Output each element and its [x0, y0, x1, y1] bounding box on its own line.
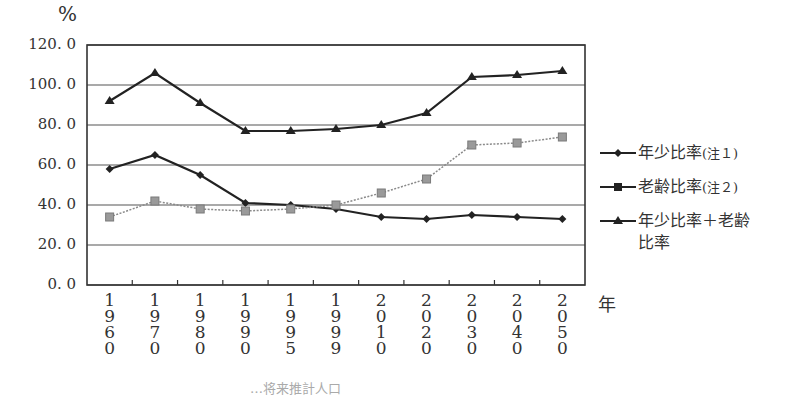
data-point: [558, 133, 566, 141]
legend-note: (注２): [702, 180, 738, 195]
series-line: [110, 71, 563, 131]
legend-label-line2: 比率: [638, 233, 670, 252]
y-unit-label: %: [58, 2, 77, 26]
y-tick-label: 60. 0: [6, 155, 76, 173]
x-tick-label: 1 9 8 0: [192, 292, 208, 356]
y-tick-label: 80. 0: [6, 115, 76, 133]
legend-label: 年少比率: [638, 143, 702, 162]
legend-label: 年少比率＋老齢: [638, 211, 750, 230]
legend-item-youth-ratio: 年少比率(注１): [598, 142, 738, 165]
y-tick-label: 120. 0: [6, 35, 76, 53]
y-tick-label: 100. 0: [6, 75, 76, 93]
x-tick-label: 2 0 1 0: [373, 292, 389, 356]
data-point: [423, 215, 431, 223]
triangle-marker-icon: [598, 210, 638, 232]
x-tick-label: 1 9 9 5: [283, 292, 299, 356]
y-tick-label: 40. 0: [6, 195, 76, 213]
x-tick-label: 2 0 2 0: [419, 292, 435, 356]
data-point: [513, 139, 521, 147]
diamond-marker-icon: [598, 142, 638, 164]
data-point: [196, 205, 204, 213]
legend-note: (注１): [702, 146, 738, 161]
legend-item-total-ratio: 年少比率＋老齢比率: [598, 210, 750, 254]
data-point: [241, 207, 249, 215]
x-tick-label: 2 0 5 0: [554, 292, 570, 356]
square-marker-icon: [598, 176, 638, 198]
data-point: [468, 211, 476, 219]
data-point: [377, 213, 385, 221]
data-point: [150, 68, 160, 76]
legend-label: 老齢比率: [638, 177, 702, 196]
data-point: [513, 213, 521, 221]
data-point: [332, 201, 340, 209]
data-point: [557, 66, 567, 74]
data-point: [468, 141, 476, 149]
data-point: [106, 213, 114, 221]
data-point: [106, 165, 114, 173]
footer-partial-text: …将来推計人口: [250, 378, 341, 397]
data-point: [377, 189, 385, 197]
legend-item-elderly-ratio: 老齢比率(注２): [598, 176, 738, 199]
data-point: [151, 151, 159, 159]
x-tick-label: 1 9 7 0: [147, 292, 163, 356]
data-point: [423, 175, 431, 183]
y-tick-label: 20. 0: [6, 235, 76, 253]
x-tick-label: 1 9 6 0: [102, 292, 118, 356]
y-tick-label: 0. 0: [6, 275, 76, 293]
x-tick-label: 2 0 4 0: [509, 292, 525, 356]
x-tick-label: 2 0 3 0: [464, 292, 480, 356]
data-point: [287, 205, 295, 213]
x-tick-label: 1 9 9 9: [328, 292, 344, 356]
x-tick-label: 1 9 9 0: [237, 292, 253, 356]
x-unit-label: 年: [598, 290, 616, 316]
data-point: [558, 215, 566, 223]
data-point: [151, 197, 159, 205]
